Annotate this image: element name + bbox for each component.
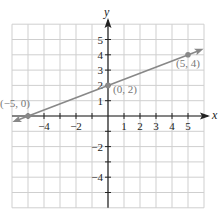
- data-point: [105, 83, 111, 89]
- x-tick-label: 1: [121, 120, 127, 132]
- y-tick-label: −4: [91, 171, 103, 183]
- point-label: (0, 2): [113, 83, 137, 96]
- y-axis-label: y: [103, 5, 110, 19]
- y-tick-labels: 54321−2−4: [91, 34, 103, 184]
- data-point: [25, 113, 31, 119]
- x-tick-label: −4: [38, 120, 50, 132]
- x-tick-labels: −4−212345: [38, 120, 191, 132]
- y-tick-label: 4: [98, 49, 104, 61]
- point-label: (5, 4): [176, 57, 200, 70]
- point-label: (−5, 0): [0, 97, 30, 110]
- axes: [12, 18, 210, 208]
- y-tick-label: 5: [98, 34, 104, 46]
- x-axis-label: x: [211, 108, 218, 122]
- y-tick-label: −2: [91, 141, 103, 153]
- y-tick-label: 1: [98, 95, 104, 107]
- x-tick-label: 3: [153, 120, 159, 132]
- x-tick-label: 4: [169, 120, 175, 132]
- x-tick-label: 2: [137, 120, 143, 132]
- x-tick-label: −2: [70, 120, 82, 132]
- y-tick-label: 3: [98, 64, 104, 76]
- coordinate-plane: −4−212345 54321−2−4 x y (−5, 0)(0, 2)(5,…: [0, 0, 221, 212]
- x-tick-label: 5: [185, 120, 191, 132]
